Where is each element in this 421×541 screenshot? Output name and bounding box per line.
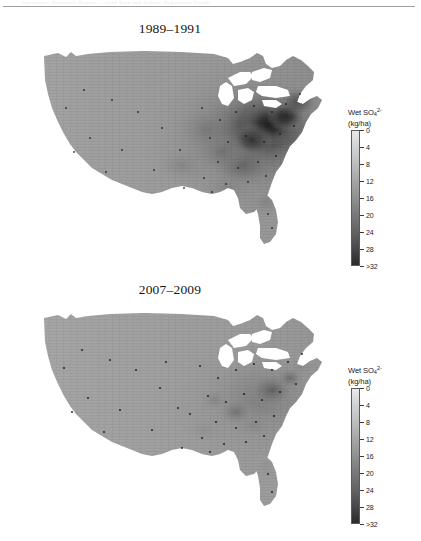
legend-tick-gt32: >32 [360, 262, 377, 270]
legend-tick-label: 8 [366, 419, 370, 426]
legend-tick-label: 20 [366, 470, 374, 477]
legend-tick-label: 28 [366, 246, 374, 253]
legend-ticks-1989-1991: 0481216202428>32 [360, 130, 415, 266]
legend-title-main: Wet SO [348, 108, 374, 117]
panel-2007-2009: 2007–2009 [0, 278, 421, 536]
legend-tick-label: >32 [366, 521, 377, 528]
legend-colorbar-2007-2009 [351, 388, 360, 524]
legend-tick-dash [360, 215, 364, 216]
legend-tick-label: 0 [366, 385, 370, 392]
legend-tick-label: 28 [366, 504, 374, 511]
legend-tick-dash [360, 405, 364, 406]
wet-sulfate-deposition-map-1989-1991 [14, 42, 344, 260]
legend-tick-dash [360, 422, 364, 423]
legend-title-2007-2009: Wet SO42- (kg/ha) [348, 364, 418, 387]
legend-tick-28: 28 [360, 503, 374, 511]
legend-tick-label: 12 [366, 178, 374, 185]
legend-tick-label: >32 [366, 263, 377, 270]
legend-title-main: Wet SO [348, 366, 374, 375]
legend-tick-12: 12 [360, 435, 374, 443]
legend-tick-label: 0 [366, 127, 370, 134]
panel-title-2007-2009: 2007–2009 [0, 282, 340, 298]
legend-ticks-2007-2009: 0481216202428>32 [360, 388, 415, 524]
legend-tick-dash [360, 266, 364, 267]
legend-tick-8: 8 [360, 418, 370, 426]
panel-1989-1991: 1989–1991 [0, 14, 421, 276]
legend-tick-24: 24 [360, 486, 374, 494]
legend-tick-dash [360, 473, 364, 474]
legend-tick-dash [360, 181, 364, 182]
legend-tick-dash [360, 524, 364, 525]
legend-tick-dash [360, 439, 364, 440]
legend-colorbar-1989-1991 [351, 130, 360, 266]
legend-tick-28: 28 [360, 245, 374, 253]
legend-title-superscript: 2- [377, 107, 382, 113]
legend-tick-dash [360, 456, 364, 457]
legend-units-1989-1991: (kg/ha) [348, 119, 418, 128]
legend-tick-label: 8 [366, 161, 370, 168]
legend-2007-2009: Wet SO42- (kg/ha) 0481216202428>32 [344, 364, 418, 528]
legend-tick-dash [360, 249, 364, 250]
legend-tick-dash [360, 164, 364, 165]
legend-tick-4: 4 [360, 143, 370, 151]
legend-tick-label: 24 [366, 229, 374, 236]
legend-tick-label: 24 [366, 487, 374, 494]
legend-title-superscript: 2- [377, 365, 382, 371]
legend-tick-16: 16 [360, 194, 374, 202]
legend-tick-gt32: >32 [360, 520, 377, 528]
scan-header-ghost-text: Interactive Scientific Report — Acid Rai… [22, 0, 322, 6]
legend-tick-0: 0 [360, 384, 370, 392]
legend-tick-8: 8 [360, 160, 370, 168]
legend-tick-label: 4 [366, 144, 370, 151]
legend-tick-dash [360, 507, 364, 508]
legend-tick-24: 24 [360, 228, 374, 236]
legend-tick-dash [360, 147, 364, 148]
wet-sulfate-deposition-map-2007-2009 [14, 304, 344, 522]
map-stage-1989-1991 [14, 42, 344, 260]
legend-tick-dash [360, 232, 364, 233]
legend-tick-label: 12 [366, 436, 374, 443]
legend-1989-1991: Wet SO42- (kg/ha) 0481216202428>32 [344, 106, 418, 270]
legend-tick-label: 16 [366, 453, 374, 460]
legend-units-2007-2009: (kg/ha) [348, 377, 418, 386]
legend-tick-label: 4 [366, 402, 370, 409]
legend-tick-0: 0 [360, 126, 370, 134]
legend-tick-20: 20 [360, 211, 374, 219]
legend-tick-20: 20 [360, 469, 374, 477]
legend-tick-16: 16 [360, 452, 374, 460]
legend-tick-dash [360, 388, 364, 389]
map-stage-2007-2009 [14, 304, 344, 522]
legend-tick-dash [360, 198, 364, 199]
legend-bar-wrap-2007-2009: 0481216202428>32 [351, 388, 415, 524]
legend-title-1989-1991: Wet SO42- (kg/ha) [348, 106, 418, 129]
panel-title-1989-1991: 1989–1991 [0, 21, 340, 37]
legend-tick-12: 12 [360, 177, 374, 185]
scan-header-rule [3, 6, 415, 7]
legend-tick-dash [360, 130, 364, 131]
legend-bar-wrap-1989-1991: 0481216202428>32 [351, 130, 415, 266]
legend-tick-label: 20 [366, 212, 374, 219]
legend-tick-dash [360, 490, 364, 491]
legend-tick-4: 4 [360, 401, 370, 409]
legend-tick-label: 16 [366, 195, 374, 202]
